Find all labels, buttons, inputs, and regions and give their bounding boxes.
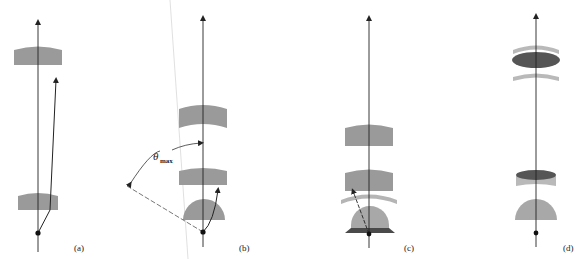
panel-d: (d)	[512, 16, 574, 253]
specimen-point	[367, 232, 372, 237]
specimen-point	[200, 229, 205, 234]
panel-label-a: (a)	[74, 243, 84, 253]
theta-max-label: θ	[153, 150, 159, 162]
guide-line	[170, 0, 188, 259]
specimen-point	[534, 231, 539, 236]
panel-b: θ max (b)	[127, 0, 250, 259]
panel-c: (c)	[341, 18, 414, 253]
panel-label-b: (b)	[239, 243, 250, 253]
lens-front-hemisphere	[183, 199, 225, 220]
panel-label-c: (c)	[404, 243, 414, 253]
objective-lens-diagram: (a) θ max (b) (c) (d	[0, 0, 581, 259]
theta-max-subscript: max	[160, 157, 173, 165]
panel-a: (a)	[14, 22, 84, 253]
angle-arc-upper	[172, 143, 201, 150]
ray-path	[38, 80, 56, 233]
specimen-point	[35, 230, 40, 235]
lens-front-hemisphere	[351, 206, 389, 229]
panel-label-d: (d)	[563, 243, 574, 253]
